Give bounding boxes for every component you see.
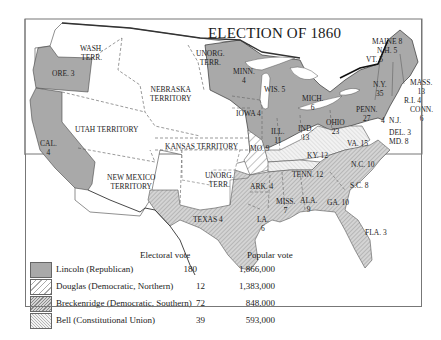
label-california: CAL. 4 [40,140,57,157]
legend-candidate: Bell (Constitutional Union) [56,315,155,325]
label-north-carolina: N.C. 10 [351,161,375,170]
legend-popular: 1,383,000 [205,281,275,291]
label-texas: TEXAS 4 [193,216,223,225]
label-minnesota: MINN. 4 [233,68,255,85]
label-missouri: MO. 9 [250,145,270,154]
label-new-jersey: N.J. [389,117,401,126]
label-alabama: ALA. 9 [300,197,317,214]
label-ohio: OHIO 23 [326,119,345,136]
label-kansas: KANSAS TERRITORY [165,143,238,152]
legend-header-electoral: Electoral vote [140,250,190,260]
map-title: ELECTION OF 1860 [208,25,341,42]
legend-row-lincoln: Lincoln (Republican) 180 1,866,000 [30,262,370,278]
label-louisiana: LA. 6 [257,216,269,233]
label-vermont: VT. 5 [366,56,383,65]
swatch-douglas [30,279,52,295]
label-illinois: ILL. 11 [271,128,285,145]
legend-electoral: 12 [175,281,205,291]
label-oregon: ORE. 3 [52,70,75,79]
legend-electoral: 180 [167,264,197,274]
label-iowa: IOWA 4 [236,110,261,119]
label-unorg-south: UNORG. TERR. [205,172,234,189]
legend-row-bell: Bell (Constitutional Union) 39 593,000 [30,313,370,329]
legend-candidate: Douglas (Democratic, Northern) [56,281,173,291]
legend-popular: 593,000 [205,315,275,325]
legend-candidate: Lincoln (Republican) [56,264,133,274]
legend-row-breckenridge: Breckenridge (Democratic, Southern) 72 8… [30,296,370,312]
frame-left [25,154,26,306]
frame-right [421,19,422,307]
legend-electoral: 39 [175,315,205,325]
label-wisconsin: WIS. 5 [264,86,285,95]
label-utah: UTAH TERRITORY [75,126,139,135]
label-indiana: IND. 13 [298,125,313,142]
label-new-york: N.Y. 35 [373,81,387,98]
label-michigan: MICH. 6 [302,95,323,112]
label-pennsylvania: PENN. 27 [356,106,377,123]
label-maryland: MD. 8 [389,138,409,147]
swatch-lincoln [30,262,52,278]
label-nj-value: 4 [381,117,385,126]
label-unorg-north: UNORG. TERR. [196,50,225,67]
legend-row-douglas: Douglas (Democratic, Northern) 12 1,383,… [30,279,370,295]
label-new-mexico: NEW MEXICO TERRITORY [107,174,155,191]
swatch-breckenridge [30,296,52,312]
label-arkansas: ARK. 4 [250,183,273,192]
legend-popular: 1,866,000 [205,264,275,274]
label-florida: FLA. 3 [365,229,387,238]
label-south-carolina: S.C. 8 [350,182,369,191]
label-tennessee: TENN. 12 [292,171,323,180]
label-mississippi: MISS. 7 [276,198,295,215]
label-georgia: GA. 10 [327,199,349,208]
swatch-bell [30,313,52,329]
label-wash-terr: WASH. TERR. [80,45,103,62]
legend-header-popular: Popular vote [247,250,293,260]
frame-bottom [25,306,422,307]
label-virginia: VA. 15 [347,140,368,149]
label-nebraska: NEBRASKA TERRITORY [150,86,192,103]
label-kentucky: KY. 12 [307,152,328,161]
